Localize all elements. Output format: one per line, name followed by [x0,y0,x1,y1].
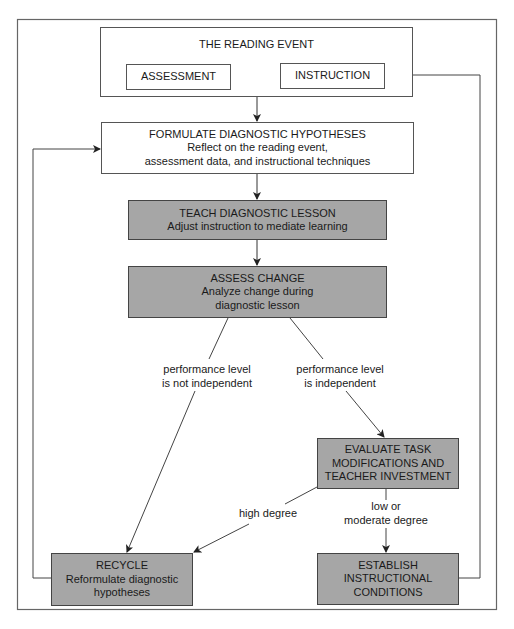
label-low-moderate-line1: low or [336,500,436,514]
label-independent-line1: performance level [285,363,395,377]
assess-change-line1: Analyze change during [202,285,314,299]
teach-lesson-box: TEACH DIAGNOSTIC LESSON Adjust instructi… [128,200,387,240]
label-low-moderate: low or moderate degree [336,500,436,527]
establish-line3: CONDITIONS [353,586,422,600]
evaluate-line2: MODIFICATIONS AND [332,457,444,471]
formulate-line2: assessment data, and instructional techn… [145,155,371,169]
label-high-degree-text: high degree [239,507,297,519]
assess-change-title: ASSESS CHANGE [210,272,304,286]
label-independent: performance level is independent [285,363,395,390]
formulate-line1: Reflect on the reading event, [187,141,328,155]
establish-line2: INSTRUCTIONAL [344,572,433,586]
assess-change-line2: diagnostic lesson [215,299,299,313]
teach-title: TEACH DIAGNOSTIC LESSON [179,207,335,221]
recycle-line2: hypotheses [94,586,150,600]
label-high-degree: high degree [228,507,308,521]
label-low-moderate-line2: moderate degree [336,514,436,528]
instruction-box: INSTRUCTION [280,63,385,89]
evaluate-line3: TEACHER INVESTMENT [325,470,452,484]
assessment-label: ASSESSMENT [141,70,216,84]
formulate-hypotheses-box: FORMULATE DIAGNOSTIC HYPOTHESES Reflect … [101,122,414,174]
evaluate-task-box: EVALUATE TASK MODIFICATIONS AND TEACHER … [317,438,459,489]
instruction-label: INSTRUCTION [295,69,370,83]
recycle-line1: Reformulate diagnostic [66,573,179,587]
label-independent-line2: is independent [285,377,395,391]
reading-event-title: THE READING EVENT [199,38,314,52]
assessment-box: ASSESSMENT [126,64,231,90]
evaluate-line1: EVALUATE TASK [345,443,432,457]
recycle-box: RECYCLE Reformulate diagnostic hypothese… [51,553,193,606]
teach-line1: Adjust instruction to mediate learning [167,220,347,234]
formulate-title: FORMULATE DIAGNOSTIC HYPOTHESES [149,128,366,142]
label-not-independent-line2: is not independent [152,377,262,391]
recycle-title: RECYCLE [96,559,148,573]
establish-line1: ESTABLISH [358,559,418,573]
label-not-independent-line1: performance level [152,363,262,377]
establish-conditions-box: ESTABLISH INSTRUCTIONAL CONDITIONS [317,553,459,605]
label-not-independent: performance level is not independent [152,363,262,390]
assess-change-box: ASSESS CHANGE Analyze change during diag… [128,266,387,318]
